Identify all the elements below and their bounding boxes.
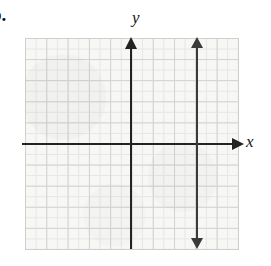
y-axis-arrow-up-icon [125,37,137,49]
figure-page: { "figure": { "problem_label": "b.", "ax… [0,0,271,266]
graph-line-vertical [196,44,198,244]
x-axis-arrow-right-icon [232,138,244,150]
x-axis-label: x [246,132,254,152]
graph-line-arrow-down-icon [191,238,203,249]
y-axis-line [130,44,132,249]
graph-line-arrow-up-icon [191,37,203,48]
y-axis-label: y [132,8,140,28]
x-axis-line [22,143,236,145]
problem-label: b. [0,4,6,26]
